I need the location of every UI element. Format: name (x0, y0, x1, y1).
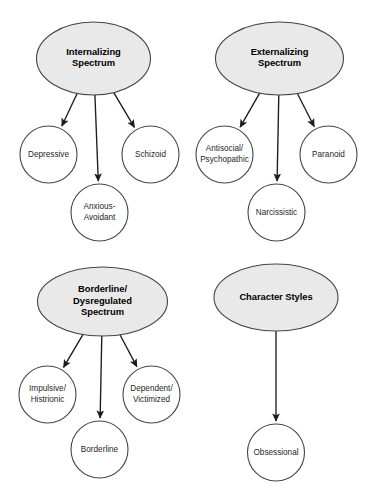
node-label-dependent-victimized: Dependent/Victimized (130, 385, 173, 404)
edges-layer (62, 93, 314, 421)
node-label-borderline-dysregulated-spectrum: Borderline/DysregulatedSpectrum (73, 284, 132, 317)
edge-internalizing-spectrum-to-anxious-avoidant (95, 95, 98, 181)
node-label-anxious-avoidant: Anxious-Avoidant (84, 203, 117, 222)
node-label-externalizing-spectrum: ExternalizingSpectrum (251, 46, 309, 68)
edge-borderline-dysregulated-spectrum-to-borderline (100, 336, 102, 418)
node-label-obsessional: Obsessional (253, 448, 298, 457)
edge-externalizing-spectrum-to-paranoid (297, 94, 314, 127)
spectrum-diagram: InternalizingSpectrumDepressiveAnxious-A… (0, 0, 374, 503)
edge-internalizing-spectrum-to-schizoid (114, 93, 135, 128)
node-label-narcissistic: Narcissistic (256, 208, 297, 217)
edge-borderline-dysregulated-spectrum-to-impulsive-histrionic (64, 334, 84, 367)
node-label-character-styles: Character Styles (239, 291, 312, 302)
node-label-antisocial-psychopathic: Antisocial/Psychopathic (200, 145, 249, 164)
nodes-layer: InternalizingSpectrumDepressiveAnxious-A… (19, 22, 357, 481)
node-label-impulsive-histrionic: Impulsive/Histrionic (29, 385, 67, 404)
edge-externalizing-spectrum-to-antisocial-psychopathic (240, 93, 259, 127)
node-label-internalizing-spectrum: InternalizingSpectrum (66, 46, 121, 68)
diagram-canvas: InternalizingSpectrumDepressiveAnxious-A… (0, 0, 374, 503)
edge-externalizing-spectrum-to-narcissistic (277, 95, 279, 181)
node-label-borderline: Borderline (81, 445, 119, 454)
edge-internalizing-spectrum-to-depressive (62, 93, 77, 126)
node-label-schizoid: Schizoid (135, 150, 166, 159)
node-label-paranoid: Paranoid (312, 150, 345, 159)
node-label-depressive: Depressive (28, 150, 69, 159)
edge-borderline-dysregulated-spectrum-to-dependent-victimized (120, 335, 137, 367)
